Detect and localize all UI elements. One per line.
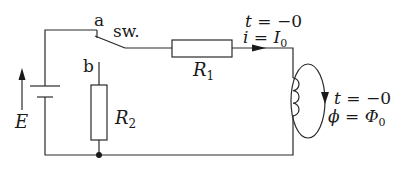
flux-loop [291, 64, 325, 138]
resistor-r1 [172, 40, 232, 57]
label-r1: R1 [192, 59, 214, 83]
inductor-coil [293, 78, 299, 116]
junction-dot [96, 152, 102, 158]
wire-r1-inductor [232, 48, 293, 78]
label-switch: sw. [113, 21, 140, 41]
label-contact-b: b [83, 56, 94, 76]
circuit-diagram: E a sw. b R1 R2 t = −0 i = I0 t = −0 ϕ =… [0, 0, 404, 182]
wire-right-bottom [45, 100, 293, 155]
label-emf: E [14, 111, 28, 132]
flux-arrow-icon [321, 92, 329, 104]
label-flux-value: ϕ = Φ0 [328, 106, 386, 129]
emf-arrow-icon [19, 68, 26, 80]
label-contact-a: a [94, 10, 104, 30]
resistor-r2 [91, 85, 107, 140]
label-r2: R2 [114, 107, 136, 131]
label-flux-time: t = −0 [334, 88, 391, 108]
